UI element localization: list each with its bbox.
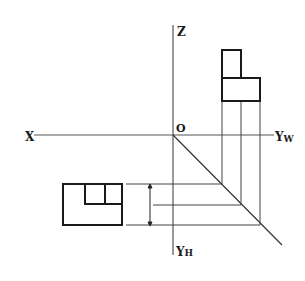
top-view: [63, 184, 122, 225]
projection-diagram: Z X O YW YH: [0, 0, 305, 281]
yh-axis-label: YH: [175, 245, 194, 259]
x-axis-label: X: [25, 130, 35, 144]
side-view: [222, 50, 260, 101]
z-axis-label: Z: [177, 25, 186, 39]
yw-axis-label: YW: [274, 130, 295, 144]
dimension-line: [148, 184, 152, 226]
side-view-lower-rect: [222, 78, 260, 101]
top-view-projection-lines: [126, 184, 260, 225]
origin-label: O: [176, 122, 186, 135]
top-view-inner-step: [85, 184, 122, 204]
side-view-projection-lines: [222, 101, 260, 225]
axes: [34, 25, 282, 255]
diagonal-45-line: [173, 135, 282, 245]
side-view-upper-rect: [222, 50, 241, 78]
